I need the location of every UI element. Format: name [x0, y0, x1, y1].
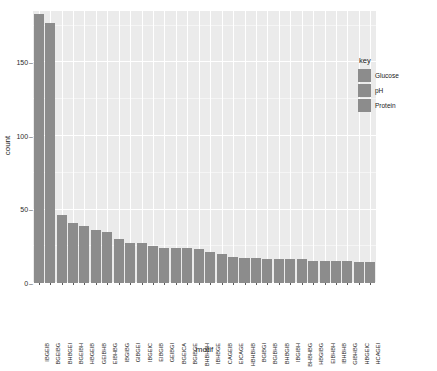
x-axis-tick-mark	[325, 283, 326, 285]
legend-item: pH	[358, 83, 434, 98]
x-axis-tick-mark	[119, 283, 120, 285]
x-axis-tick-mark	[50, 283, 51, 285]
bar	[239, 258, 249, 283]
x-axis-tick-mark	[176, 283, 177, 285]
bar	[262, 259, 272, 283]
x-axis-tick-mark	[96, 283, 97, 285]
bar	[320, 261, 330, 283]
bar	[217, 254, 227, 283]
bar	[365, 262, 375, 283]
x-axis-tick-mark	[222, 283, 223, 285]
x-axis-tick-mark	[153, 283, 154, 285]
x-axis-tick-mark	[199, 283, 200, 285]
x-axis-tick-mark	[313, 283, 314, 285]
x-axis-tick-mark	[130, 283, 131, 285]
bar	[114, 239, 124, 283]
legend-item: Glucose	[358, 68, 434, 83]
bar	[137, 243, 147, 283]
x-axis-tick-mark	[164, 283, 165, 285]
y-axis-tick-label: 100–	[16, 132, 33, 139]
bar	[171, 248, 181, 283]
y-axis-title-text: count	[4, 135, 13, 155]
bars-layer	[33, 11, 376, 283]
bar	[182, 248, 192, 283]
x-axis-tick-mark	[84, 283, 85, 285]
legend-swatch	[358, 99, 371, 112]
x-axis-tick-mark	[73, 283, 74, 285]
bar	[342, 261, 352, 283]
x-axis-tick-mark	[267, 283, 268, 285]
x-axis-tick-mark	[256, 283, 257, 285]
legend: key GlucosepHProtein	[358, 56, 434, 113]
x-axis-tick-mark	[290, 283, 291, 285]
bar	[251, 258, 261, 283]
bar	[274, 259, 284, 283]
bar	[34, 14, 44, 283]
legend-item: Protein	[358, 98, 434, 113]
y-axis-tick-label: 150–	[16, 59, 33, 66]
bar	[148, 246, 158, 283]
bar	[285, 259, 295, 283]
legend-label: pH	[371, 87, 383, 94]
bar	[228, 257, 238, 283]
bar	[57, 215, 67, 283]
bar	[159, 248, 169, 283]
legend-label: Protein	[371, 102, 396, 109]
x-axis-tick-mark	[302, 283, 303, 285]
bar	[68, 223, 78, 283]
bar	[297, 259, 307, 283]
bar	[308, 261, 318, 283]
y-axis-tick-label: 0–	[24, 280, 33, 287]
bar	[354, 262, 364, 283]
bar	[91, 230, 101, 283]
legend-swatch	[358, 69, 371, 82]
x-axis-tick-mark	[245, 283, 246, 285]
bar	[45, 23, 55, 283]
x-axis-tick-mark	[62, 283, 63, 285]
x-axis-title: motif	[33, 345, 376, 354]
bar	[125, 243, 135, 283]
x-axis-tick-mark	[187, 283, 188, 285]
bar	[194, 249, 204, 283]
x-axis-tick-mark	[359, 283, 360, 285]
legend-swatch	[358, 84, 371, 97]
legend-label: Glucose	[371, 72, 399, 79]
bar	[79, 226, 89, 283]
x-axis-tick-mark	[107, 283, 108, 285]
x-axis-tick-mark	[279, 283, 280, 285]
legend-items: GlucosepHProtein	[358, 68, 434, 113]
y-axis: 0–50–100–150–	[13, 0, 33, 290]
x-axis-tick-mark	[336, 283, 337, 285]
x-axis-tick-mark	[347, 283, 348, 285]
bar	[205, 252, 215, 283]
bar	[102, 232, 112, 283]
y-axis-tick-label: 50–	[20, 206, 33, 213]
x-axis-tick-mark	[39, 283, 40, 285]
x-axis: IBGEIBBGEIBGBHBGEIBGEIBHHBGEIBGEIBHBEIBH…	[33, 283, 376, 345]
x-axis-tick-mark	[370, 283, 371, 285]
x-axis-tick-mark	[142, 283, 143, 285]
plot-panel	[33, 11, 376, 283]
legend-title: key	[358, 56, 434, 65]
x-axis-tick-mark	[210, 283, 211, 285]
x-axis-tick-mark	[233, 283, 234, 285]
bar	[331, 261, 341, 283]
